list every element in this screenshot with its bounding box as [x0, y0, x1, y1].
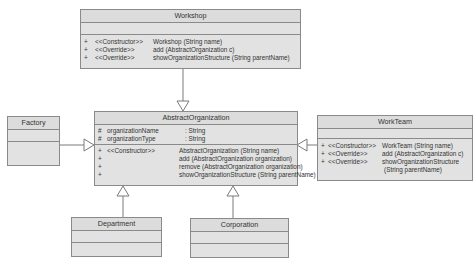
workshop-inheritance-arrow-icon: [177, 101, 189, 111]
method-row: +remove (AbstractOrganization organizati…: [95, 163, 297, 171]
attribute-row: #organizationType: String: [95, 135, 297, 143]
class-abstract-organization[interactable]: AbstractOrganization #organizationName: …: [94, 111, 298, 186]
method-row: +<<Override>>showOrganizationStructure: [318, 158, 472, 166]
methods-compartment: +<<Constructor>>WorkTeam (String name) +…: [318, 139, 472, 174]
method-row: +<<Constructor>>WorkTeam (String name): [318, 142, 472, 150]
attributes-compartment: [191, 232, 288, 244]
method-row: +add (AbstractOrganization organization): [95, 155, 297, 163]
method-row: (String parentName): [318, 166, 472, 174]
corporation-inheritance-arrow-icon: [227, 186, 239, 196]
methods-compartment: +<<Constructor>>AbstractOrganization (St…: [95, 145, 297, 179]
class-name: Workshop: [81, 10, 300, 23]
method-row: +<<Override>>add (AbstractOrganization c…: [81, 46, 300, 54]
class-name: Corporation: [191, 219, 288, 232]
class-name: AbstractOrganization: [95, 112, 297, 125]
class-workshop[interactable]: Workshop +<<Constructor>>Workshop (Strin…: [80, 9, 301, 69]
class-name: WorkTeam: [318, 116, 472, 129]
attributes-compartment: #organizationName: String #organizationT…: [95, 125, 297, 145]
class-workteam[interactable]: WorkTeam +<<Constructor>>WorkTeam (Strin…: [317, 115, 473, 181]
method-row: +<<Override>>showOrganizationStructure (…: [81, 54, 300, 62]
class-name: Department: [72, 218, 161, 231]
attributes-compartment: [318, 129, 472, 139]
attributes-compartment: [81, 23, 300, 35]
method-row: +<<Constructor>>Workshop (String name): [81, 38, 300, 46]
methods-compartment: +<<Constructor>>Workshop (String name) +…: [81, 35, 300, 62]
class-factory[interactable]: Factory: [7, 116, 60, 166]
attribute-row: #organizationName: String: [95, 127, 297, 135]
method-row: +<<Constructor>>AbstractOrganization (St…: [95, 147, 297, 155]
class-corporation[interactable]: Corporation: [190, 218, 289, 258]
class-name: Factory: [8, 117, 59, 130]
workteam-inheritance-arrow-icon: [297, 139, 307, 151]
method-row: +showOrganizationStructure (String paren…: [95, 171, 297, 179]
department-inheritance-arrow-icon: [117, 186, 129, 196]
method-row: +<<Override>>add (AbstractOrganization c…: [318, 150, 472, 158]
class-department[interactable]: Department: [71, 217, 162, 257]
factory-inheritance-arrow-icon: [84, 139, 94, 151]
attributes-compartment: [72, 231, 161, 243]
attributes-compartment: [8, 130, 59, 142]
